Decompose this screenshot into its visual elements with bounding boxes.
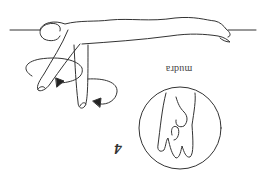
arm-outline-bottom [82, 34, 230, 44]
circular-arrow-right [88, 79, 117, 104]
line-drawing [0, 0, 273, 190]
mudra-hand [158, 93, 195, 158]
mudra-inset-circle [139, 87, 221, 169]
arrowhead-left [56, 78, 64, 87]
hand-curl [40, 23, 60, 40]
fingernail-left [38, 87, 45, 89]
illustration-figure: mudra 4 [0, 0, 273, 190]
mudra-label: mudra [164, 64, 194, 75]
mudra-finger-fold [171, 126, 178, 140]
finger-right [74, 45, 88, 108]
arrowhead-right [93, 98, 101, 107]
figure-number: 4 [111, 140, 125, 157]
circular-arrow-left [26, 58, 82, 83]
mudra-thumb [176, 97, 187, 127]
